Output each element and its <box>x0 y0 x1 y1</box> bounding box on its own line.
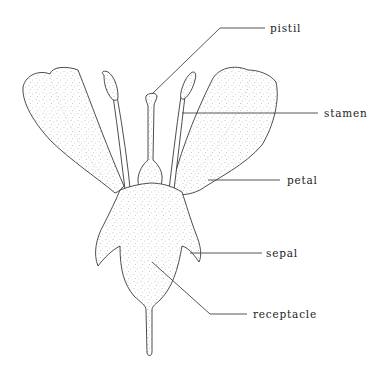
stamen-left-anther <box>102 71 118 100</box>
label-petal: petal <box>287 174 318 186</box>
label-pistil: pistil <box>270 22 301 34</box>
pistil-shape <box>138 93 162 196</box>
receptacle-shape <box>96 183 201 356</box>
label-receptacle: receptacle <box>253 308 317 320</box>
label-sepal: sepal <box>266 247 298 259</box>
label-stamen: stamen <box>324 107 368 119</box>
flower-diagram: pistil stamen petal sepal receptacle <box>0 0 384 382</box>
stamen-right-anther <box>181 72 196 99</box>
